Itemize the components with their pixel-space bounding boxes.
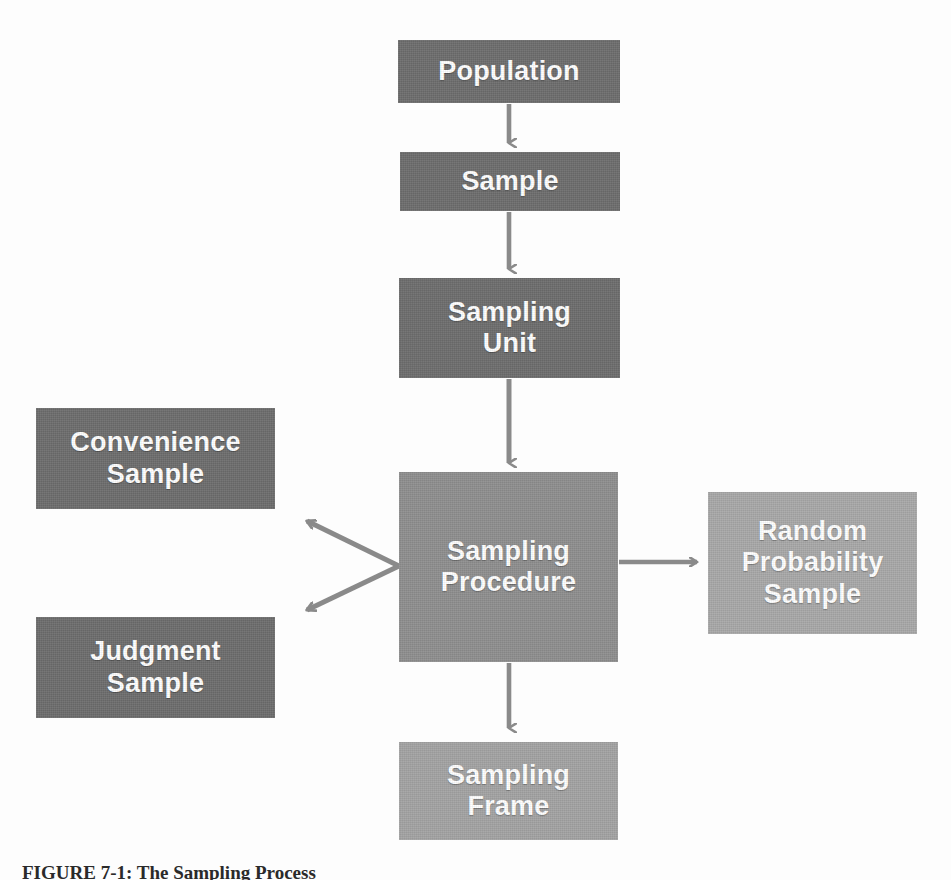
node-population[interactable]: Population: [398, 40, 620, 103]
edge-sampling-procedure-to-judgment-sample: [307, 566, 399, 610]
node-judgment-sample-label: Judgment Sample: [84, 636, 227, 699]
node-sample-label: Sample: [455, 166, 564, 197]
node-population-label: Population: [432, 56, 585, 87]
edge-sampling-procedure-to-convenience-sample: [307, 521, 399, 566]
node-judgment-sample[interactable]: Judgment Sample: [36, 617, 275, 718]
node-sampling-frame-label: Sampling Frame: [441, 760, 576, 823]
node-random-probability-sample-label: Random Probability Sample: [736, 516, 890, 610]
node-sampling-unit[interactable]: Sampling Unit: [399, 278, 620, 378]
node-convenience-sample[interactable]: Convenience Sample: [36, 408, 275, 509]
node-sampling-procedure-label: Sampling Procedure: [435, 536, 582, 599]
node-convenience-sample-label: Convenience Sample: [64, 427, 246, 490]
node-random-probability-sample[interactable]: Random Probability Sample: [708, 492, 917, 634]
node-sampling-procedure[interactable]: Sampling Procedure: [399, 472, 618, 662]
node-sampling-frame[interactable]: Sampling Frame: [399, 742, 618, 840]
node-sample[interactable]: Sample: [400, 152, 620, 211]
figure-caption: FIGURE 7-1: The Sampling Process: [22, 862, 622, 880]
node-sampling-unit-label: Sampling Unit: [442, 297, 577, 360]
